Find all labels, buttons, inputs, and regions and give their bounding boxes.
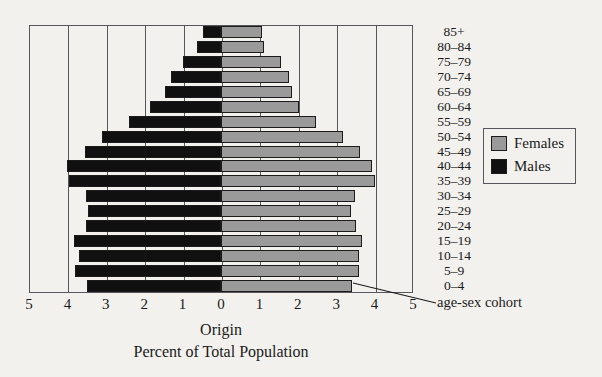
x-tick-label: 2 <box>286 295 310 313</box>
age-group-label: 45–49 <box>418 145 490 158</box>
bar-female <box>221 26 262 38</box>
age-group-label: 75–79 <box>418 55 490 68</box>
bar-row <box>29 56 413 69</box>
bar-female <box>221 265 359 277</box>
bar-female <box>221 250 359 262</box>
legend: Females Males <box>483 128 576 184</box>
callout-label-age-sex-cohort: age-sex cohort <box>437 294 522 311</box>
x-tick-label: 3 <box>94 295 118 313</box>
bar-row <box>29 85 413 98</box>
bar-row <box>29 219 413 232</box>
legend-label-females: Females <box>514 135 564 152</box>
bar-male <box>67 160 221 172</box>
bar-row <box>29 234 413 247</box>
x-tick-label: 2 <box>132 295 156 313</box>
bar-male <box>129 116 221 128</box>
bar-female <box>221 101 299 113</box>
bar-female <box>221 190 355 202</box>
legend-swatch-females-icon <box>491 136 507 151</box>
x-tick-label: 5 <box>401 295 425 313</box>
bar-male <box>183 56 221 68</box>
x-tick-label: 4 <box>55 295 79 313</box>
x-tick-label: 1 <box>247 295 271 313</box>
bar-male <box>85 146 221 158</box>
bar-row <box>29 115 413 128</box>
bar-female <box>221 116 316 128</box>
legend-swatch-males-icon <box>491 159 507 174</box>
bar-female <box>221 146 360 158</box>
bar-rows <box>29 25 413 293</box>
age-group-label: 55–59 <box>418 115 490 128</box>
bar-row <box>29 175 413 188</box>
age-group-label: 20–24 <box>418 219 490 232</box>
age-group-labels: 85+80–8475–7970–7465–6960–6455–5950–5445… <box>418 25 490 293</box>
age-group-label: 70–74 <box>418 70 490 83</box>
bar-row <box>29 145 413 158</box>
bar-row <box>29 70 413 83</box>
bar-female <box>221 220 356 232</box>
bar-row <box>29 160 413 173</box>
age-group-label: 15–19 <box>418 234 490 247</box>
bar-female <box>221 56 281 68</box>
age-group-label: 35–39 <box>418 174 490 187</box>
age-group-label: 10–14 <box>418 249 490 262</box>
bar-row <box>29 100 413 113</box>
population-pyramid-chart: 54321012345 85+80–8475–7970–7465–6960–64… <box>0 0 602 377</box>
bar-male <box>75 265 221 277</box>
bar-male <box>171 71 221 83</box>
bar-row <box>29 26 413 39</box>
age-group-label: 50–54 <box>418 130 490 143</box>
age-group-label: 0–4 <box>418 279 490 292</box>
age-group-label: 85+ <box>418 25 490 38</box>
legend-item-males: Males <box>491 158 551 175</box>
bar-row <box>29 249 413 262</box>
bar-female <box>221 41 264 53</box>
age-group-label: 80–84 <box>418 40 490 53</box>
bar-female <box>221 160 372 172</box>
legend-item-females: Females <box>491 135 564 152</box>
bar-male <box>74 235 221 247</box>
bar-male <box>88 205 221 217</box>
bar-male <box>102 131 221 143</box>
x-tick-label: 0 <box>209 295 233 313</box>
bar-female <box>221 175 375 187</box>
age-group-label: 60–64 <box>418 100 490 113</box>
x-tick-label: 5 <box>17 295 41 313</box>
bar-row <box>29 41 413 54</box>
legend-label-males: Males <box>514 158 551 175</box>
bar-male <box>86 220 221 232</box>
bar-row <box>29 279 413 292</box>
origin-caption: Origin <box>29 320 413 339</box>
x-axis-title: Percent of Total Population <box>29 342 413 361</box>
bar-male <box>69 175 221 187</box>
bar-male <box>86 190 221 202</box>
age-group-label: 40–44 <box>418 159 490 172</box>
bar-row <box>29 130 413 143</box>
age-group-label: 25–29 <box>418 204 490 217</box>
bar-male <box>79 250 221 262</box>
x-tick-label: 4 <box>363 295 387 313</box>
bar-female <box>221 86 292 98</box>
age-group-label: 30–34 <box>418 189 490 202</box>
bar-female <box>221 235 362 247</box>
bar-male <box>165 86 221 98</box>
bar-male <box>203 26 221 38</box>
bar-female <box>221 205 351 217</box>
bar-female <box>221 131 343 143</box>
bar-male <box>197 41 221 53</box>
x-tick-label: 1 <box>171 295 195 313</box>
bar-male <box>87 280 221 292</box>
bar-female <box>221 71 289 83</box>
age-group-label: 65–69 <box>418 85 490 98</box>
bar-row <box>29 264 413 277</box>
bar-row <box>29 204 413 217</box>
age-group-label: 5–9 <box>418 264 490 277</box>
x-tick-label: 3 <box>324 295 348 313</box>
bar-male <box>150 101 221 113</box>
bar-female <box>221 280 352 292</box>
bar-row <box>29 190 413 203</box>
